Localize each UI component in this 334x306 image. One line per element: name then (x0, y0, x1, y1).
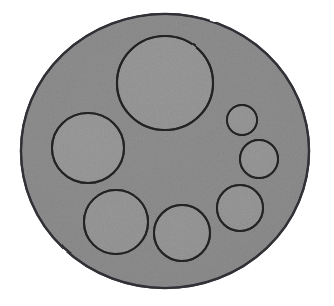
figure-root (0, 0, 334, 306)
circle-packing-figure (0, 0, 334, 306)
global-grain-overlay (21, 14, 309, 288)
